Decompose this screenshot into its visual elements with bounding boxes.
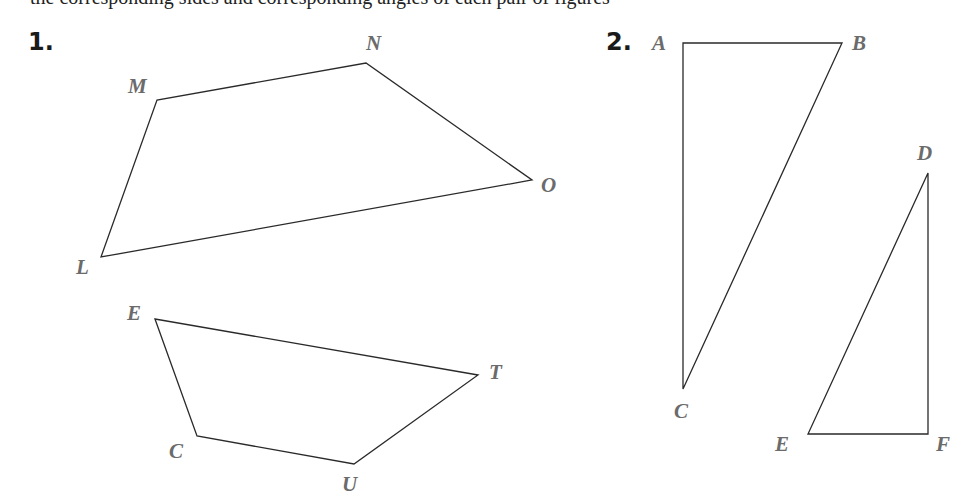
vertex-label-o: O xyxy=(541,173,556,197)
vertex-label-b: B xyxy=(851,31,866,55)
vertex-label-c: C xyxy=(169,439,184,463)
vertex-label-t: T xyxy=(489,360,503,384)
vertex-label-m: M xyxy=(127,74,148,98)
triangle-def xyxy=(808,173,928,434)
vertex-label-e-triangle: E xyxy=(774,432,789,456)
vertex-label-u: U xyxy=(342,472,359,496)
vertex-label-c-triangle: C xyxy=(674,399,689,423)
textbook-page: the corresponding sides and correspondin… xyxy=(0,0,961,501)
quadrilateral-lmno xyxy=(101,63,532,257)
figure-canvas: 1. 2. L M N O E T U C A B C D E F xyxy=(0,0,961,501)
quadrilateral-etuc xyxy=(155,319,478,464)
triangle-abc xyxy=(683,43,842,389)
vertex-label-e: E xyxy=(126,301,141,325)
vertex-label-d: D xyxy=(916,141,932,165)
vertex-label-l: L xyxy=(75,255,89,279)
problem-number-1: 1. xyxy=(28,28,54,56)
vertex-label-a: A xyxy=(650,31,666,55)
problem-number-2: 2. xyxy=(606,28,632,56)
vertex-label-n: N xyxy=(365,31,382,55)
vertex-label-f: F xyxy=(935,432,950,456)
